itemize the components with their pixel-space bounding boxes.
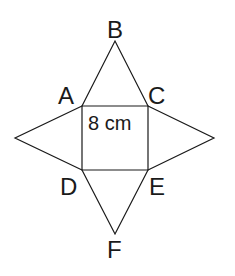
side-length-label: 8 cm	[88, 112, 131, 134]
vertex-label-c: C	[148, 82, 165, 109]
vertex-label-f: F	[107, 236, 122, 263]
vertex-label-e: E	[149, 173, 165, 200]
triangle-left	[15, 106, 82, 170]
vertex-label-b: B	[107, 16, 123, 43]
triangle-bottom	[82, 170, 148, 234]
vertex-label-d: D	[60, 173, 77, 200]
triangle-right	[148, 106, 214, 170]
diagram-canvas: B A C D E F 8 cm	[0, 0, 235, 276]
triangle-top	[82, 41, 148, 106]
vertex-label-a: A	[58, 82, 74, 109]
pyramid-net-diagram: B A C D E F 8 cm	[0, 0, 235, 276]
